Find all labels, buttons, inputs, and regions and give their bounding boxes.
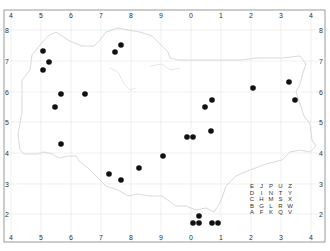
data-point-dot <box>209 97 215 103</box>
data-point-dot <box>208 128 214 134</box>
x-tick-label-top: 1 <box>219 12 223 19</box>
y-tick-label-left: 4 <box>5 150 9 157</box>
letter-grid-cell: T <box>279 190 283 196</box>
letter-grid-cell: S <box>278 196 282 202</box>
letter-grid-cell: R <box>278 203 283 209</box>
letter-grid-cell: Y <box>288 190 292 196</box>
data-point-dot <box>118 177 124 183</box>
letter-grid-cell: M <box>269 196 274 202</box>
letter-grid-cell: X <box>288 196 292 202</box>
y-tick-label-right: 5 <box>319 119 323 126</box>
x-tick-label-top: 9 <box>159 12 163 19</box>
y-tick-label-left: 8 <box>5 27 9 34</box>
x-tick-label-bottom: 1 <box>219 234 223 241</box>
y-tick-label-left: 7 <box>5 58 9 65</box>
x-tick-label-bottom: 6 <box>69 234 73 241</box>
x-tick-label-bottom: 3 <box>279 234 283 241</box>
letter-grid-cell: N <box>269 190 273 196</box>
data-point-dot <box>190 220 196 226</box>
x-tick-label-bottom: 4 <box>9 234 13 241</box>
letter-grid-cell: F <box>260 209 264 215</box>
data-point-dot <box>52 104 58 110</box>
x-tick-label-bottom: 5 <box>39 234 43 241</box>
letter-grid-cell: U <box>278 183 282 189</box>
data-point-dot <box>118 42 124 48</box>
y-tick-label-left: 6 <box>5 89 9 96</box>
x-tick-label-top: 7 <box>99 12 103 19</box>
data-point-dot <box>190 134 196 140</box>
data-point-dot <box>82 91 88 97</box>
letter-grid-cell: V <box>288 209 292 215</box>
data-point-dot <box>209 220 215 226</box>
data-point-dot <box>58 91 64 97</box>
y-tick-label-right: 6 <box>319 89 323 96</box>
x-tick-label-bottom: 0 <box>189 234 193 241</box>
x-tick-label-top: 4 <box>309 12 313 19</box>
letter-grid-cell: C <box>250 196 255 202</box>
x-tick-label-top: 4 <box>9 12 13 19</box>
x-tick-label-bottom: 4 <box>309 234 313 241</box>
data-point-dot <box>58 141 64 147</box>
letter-grid-cell: Z <box>288 183 292 189</box>
data-point-dot <box>286 79 292 85</box>
y-tick-label-left: 2 <box>5 211 9 218</box>
letter-grid-cell: H <box>259 196 263 202</box>
data-point-dot <box>202 104 208 110</box>
letter-grid-cell: P <box>269 183 273 189</box>
data-point-dot <box>292 97 298 103</box>
y-tick-label-right: 3 <box>319 181 323 188</box>
x-tick-label-top: 3 <box>279 12 283 19</box>
data-point-dot <box>196 220 202 226</box>
y-tick-label-right: 8 <box>319 27 323 34</box>
x-tick-label-top: 8 <box>129 12 133 19</box>
letter-grid-cell: D <box>250 190 255 196</box>
y-tick-label-left: 5 <box>5 119 9 126</box>
data-point-dot <box>184 134 190 140</box>
data-point-dot <box>160 153 166 159</box>
y-tick-label-left: 3 <box>5 181 9 188</box>
x-tick-label-bottom: 8 <box>129 234 133 241</box>
map-canvas: 45678901234 45678901234 8765432 8765432 … <box>0 0 330 251</box>
letter-grid-cell: W <box>287 203 293 209</box>
data-point-dot <box>40 67 46 73</box>
data-point-dot <box>196 213 202 219</box>
letter-grid-cell: G <box>259 203 264 209</box>
data-point-dot <box>250 85 256 91</box>
letter-grid-cell: A <box>250 209 254 215</box>
letter-grid-cell: E <box>250 183 254 189</box>
x-tick-label-bottom: 9 <box>159 234 163 241</box>
data-point-dot <box>136 165 142 171</box>
data-point-dot <box>112 49 118 55</box>
x-tick-label-bottom: 7 <box>99 234 103 241</box>
data-point-dot <box>106 171 112 177</box>
letter-grid-cell: J <box>260 183 263 189</box>
letter-grid-cell: B <box>250 203 254 209</box>
y-tick-label-right: 4 <box>319 150 323 157</box>
data-point-dot <box>215 220 221 226</box>
letter-grid-cell: K <box>269 209 273 215</box>
x-tick-label-top: 2 <box>249 12 253 19</box>
y-tick-label-right: 2 <box>319 211 323 218</box>
x-tick-label-top: 0 <box>189 12 193 19</box>
data-point-dot <box>40 48 46 54</box>
letter-grid-cell: Q <box>278 209 283 215</box>
data-point-dot <box>46 59 52 65</box>
x-tick-label-top: 5 <box>39 12 43 19</box>
x-tick-label-top: 6 <box>69 12 73 19</box>
x-tick-label-bottom: 2 <box>249 234 253 241</box>
y-tick-label-right: 7 <box>319 58 323 65</box>
